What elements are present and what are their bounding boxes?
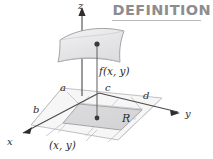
header-underline <box>112 20 201 22</box>
figure-container: DEFINITION z x y a b c d R f(x, y) (x, y… <box>0 0 213 159</box>
height-label: f(x, y) <box>99 66 130 77</box>
surface-point <box>94 41 99 46</box>
axis-label-x: x <box>7 137 13 147</box>
axis-label-z: z <box>78 1 83 11</box>
axis-label-y: y <box>185 109 191 119</box>
definition-title: DEFINITION <box>112 3 211 18</box>
region-label: R <box>122 113 130 124</box>
plane-point <box>95 116 100 121</box>
bound-label-a: a <box>60 83 66 93</box>
surface-patch <box>58 28 124 62</box>
definition-header: DEFINITION <box>112 3 211 21</box>
bound-label-b: b <box>33 105 39 115</box>
diagram-canvas <box>0 0 213 159</box>
point-label: (x, y) <box>49 140 76 151</box>
bound-label-d: d <box>143 91 149 101</box>
bound-label-c: c <box>105 83 111 93</box>
